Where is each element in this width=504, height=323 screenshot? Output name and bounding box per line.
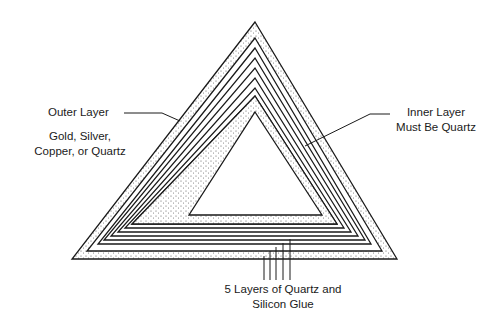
middle-layers-label: 5 Layers of Quartz and Silicon Glue	[213, 282, 353, 312]
middle-layers-line-2: Silicon Glue	[213, 297, 353, 312]
triangle-diagram	[0, 0, 504, 323]
middle-layers-line-1: 5 Layers of Quartz and	[213, 282, 353, 297]
inner-layer-line-2: Must Be Quartz	[386, 120, 486, 135]
outer-layer-material: Gold, Silver, Copper, or Quartz	[25, 129, 135, 159]
outer-layer-leader	[124, 113, 180, 121]
inner-layer-label: Inner Layer Must Be Quartz	[386, 105, 486, 135]
outer-layer-title: Outer Layer	[48, 105, 109, 120]
outer-material-line-2: Copper, or Quartz	[25, 144, 135, 159]
inner-layer-line-1: Inner Layer	[386, 105, 486, 120]
outer-material-line-1: Gold, Silver,	[25, 129, 135, 144]
